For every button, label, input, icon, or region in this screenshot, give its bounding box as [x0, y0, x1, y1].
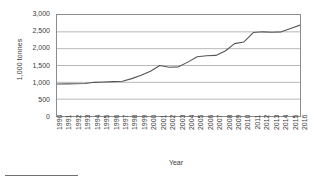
- x-axis-tick-label: 2003: [179, 118, 186, 134]
- y-axis-tick-label: 1,500: [32, 62, 50, 70]
- x-axis-tick-labels: 1990199119921993199419951996199719981999…: [56, 118, 301, 154]
- y-axis-tick-label: 2,500: [32, 27, 50, 35]
- x-axis-tick-label: 1999: [141, 118, 148, 134]
- x-axis-tick-label: 2015: [292, 118, 299, 134]
- x-axis-tick-label: 1998: [131, 118, 138, 134]
- x-axis-tick-label: 2010: [244, 118, 251, 134]
- y-axis-tick-label: 1,000: [32, 79, 50, 87]
- x-axis-tick-label: 2008: [226, 118, 233, 134]
- x-axis-tick-label: 1993: [84, 118, 91, 134]
- y-axis-tick-labels: 3,0002,5002,0001,5001,0005000: [10, 10, 53, 121]
- gridlines: [57, 32, 300, 99]
- y-axis-tick-label: 2,000: [32, 44, 50, 52]
- y-axis-tick-label: 0: [46, 113, 50, 121]
- x-axis-tick-label: 2009: [235, 118, 242, 134]
- x-axis-tick-label: 2000: [150, 118, 157, 134]
- x-axis-title: Year: [150, 159, 202, 166]
- x-axis-tick-label: 1992: [75, 118, 82, 134]
- x-axis-tick-label: 2014: [282, 118, 289, 134]
- y-axis-tick-label: 500: [38, 96, 50, 104]
- x-axis-tick-label: 2005: [197, 118, 204, 134]
- data-series-line: [57, 25, 300, 84]
- x-axis-tick-label: 2007: [216, 118, 223, 134]
- x-axis-tick-label: 1990: [56, 118, 63, 134]
- plot-svg: [57, 15, 300, 116]
- footnote-separator-rule: [5, 175, 78, 176]
- x-axis-tick-label: 1994: [94, 118, 101, 134]
- x-axis-tick-label: 1997: [122, 118, 129, 134]
- x-axis-tick-label: 2001: [160, 118, 167, 134]
- y-axis-tick-label: 3,000: [32, 10, 50, 18]
- x-axis-tick-label: 1996: [113, 118, 120, 134]
- x-axis-tick-label: 1995: [103, 118, 110, 134]
- x-axis-tick-label: 2002: [169, 118, 176, 134]
- x-axis-tick-label: 2004: [188, 118, 195, 134]
- line-chart-figure: 1,000 tonnes 3,0002,5002,0001,5001,00050…: [0, 0, 315, 182]
- x-axis-tick-label: 1991: [65, 118, 72, 134]
- plot-area: [56, 14, 301, 117]
- x-axis-tick-label: 2011: [254, 118, 261, 133]
- x-axis-tick-label: 2016: [301, 118, 308, 134]
- x-axis-tick-label: 2013: [273, 118, 280, 134]
- x-axis-tick-label: 2006: [207, 118, 214, 134]
- x-axis-tick-label: 2012: [263, 118, 270, 134]
